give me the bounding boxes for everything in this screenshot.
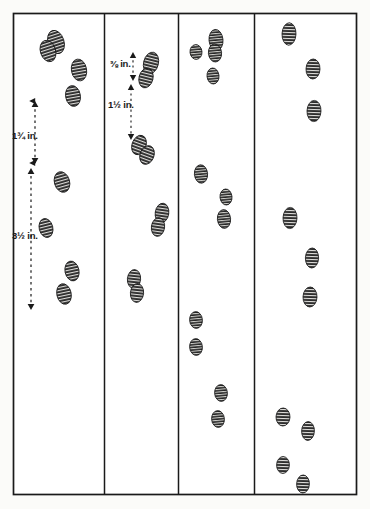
track-print	[282, 23, 297, 46]
track-print	[276, 408, 291, 426]
track-print	[276, 456, 289, 473]
track-print	[307, 100, 322, 122]
measurement-label-1-and-three-quarters-inch: 1¾ in.	[12, 131, 38, 141]
track-print	[296, 475, 309, 493]
track-pattern-figure: 1¾ in. 3½ in. ⅜ in. 1½ in.	[0, 0, 370, 509]
measurement-label-3-and-a-half-inch: 3½ in.	[12, 231, 38, 241]
measurement-label-1-and-a-half-inch: 1½ in.	[108, 100, 134, 110]
track-print	[305, 248, 319, 268]
track-print	[301, 421, 314, 440]
track-print	[306, 59, 321, 79]
measurement-label-three-eighths-inch: ⅜ in.	[110, 59, 131, 69]
track-print	[303, 287, 318, 307]
figure-canvas	[0, 0, 370, 509]
track-print	[283, 207, 298, 229]
